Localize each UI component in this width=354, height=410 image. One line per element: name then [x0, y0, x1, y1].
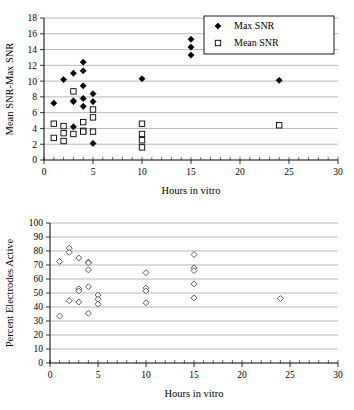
legend-label: Max SNR: [234, 20, 275, 31]
data-point-mean-snr: [139, 131, 144, 136]
data-point-percent-active: [66, 249, 72, 255]
data-point-percent-active: [57, 259, 63, 265]
data-point-max-snr: [188, 52, 194, 58]
y-tick-label: 16: [28, 29, 38, 39]
data-point-percent-active: [85, 310, 91, 316]
x-tick-label: 30: [333, 167, 343, 177]
data-point-mean-snr: [90, 107, 95, 112]
data-point-percent-active: [85, 284, 91, 290]
y-tick-label: 18: [28, 13, 38, 23]
data-point-percent-active: [85, 267, 91, 273]
x-tick-label: 25: [285, 370, 295, 380]
y-tick-label: 2: [32, 140, 37, 150]
data-point-percent-active: [143, 300, 149, 306]
y-tick-label: 90: [34, 232, 44, 242]
data-point-mean-snr: [71, 131, 76, 136]
data-point-mean-snr: [139, 145, 144, 150]
data-point-mean-snr: [61, 123, 66, 128]
x-tick-label: 0: [42, 167, 47, 177]
data-point-max-snr: [70, 124, 76, 130]
series-percent-electrodes-active: [57, 245, 284, 319]
data-point-mean-snr: [277, 123, 282, 128]
data-point-max-snr: [188, 36, 194, 42]
y-tick-label: 12: [28, 61, 38, 71]
data-point-max-snr: [80, 83, 86, 89]
x-tick-label: 15: [189, 370, 199, 380]
data-point-max-snr: [276, 77, 282, 83]
data-point-max-snr: [90, 91, 96, 97]
data-point-mean-snr: [139, 121, 144, 126]
x-tick-label: 5: [91, 167, 96, 177]
scatter-plot-snr: 051015202530024681012141618Hours in vitr…: [0, 0, 354, 205]
data-point-max-snr: [80, 59, 86, 65]
data-point-mean-snr: [61, 130, 66, 135]
x-axis-ticks: 051015202530: [42, 160, 343, 177]
data-point-percent-active: [277, 296, 283, 302]
data-point-max-snr: [70, 99, 76, 105]
y-tick-label: 4: [32, 124, 37, 134]
data-point-percent-active: [143, 270, 149, 276]
y-axis-title: Mean SNR-Max SNR: [4, 43, 15, 136]
y-tick-label: 0: [38, 358, 43, 368]
x-tick-label: 20: [235, 167, 245, 177]
data-point-mean-snr: [51, 121, 56, 126]
data-point-mean-snr: [139, 138, 144, 143]
y-tick-label: 20: [34, 330, 44, 340]
data-point-percent-active: [95, 301, 101, 307]
data-point-percent-active: [191, 281, 197, 287]
data-point-max-snr: [90, 99, 96, 105]
y-tick-label: 60: [34, 274, 44, 284]
y-tick-label: 100: [29, 218, 44, 228]
x-tick-label: 10: [137, 167, 147, 177]
data-point-mean-snr: [90, 115, 95, 120]
data-point-max-snr: [51, 100, 57, 106]
x-tick-label: 10: [141, 370, 151, 380]
x-axis-title: Hours in vitro: [162, 185, 221, 196]
x-tick-label: 15: [186, 167, 196, 177]
legend: Max SNRMean SNR: [204, 16, 334, 54]
chart-top-snr: 051015202530024681012141618Hours in vitr…: [0, 0, 354, 205]
data-point-max-snr: [70, 70, 76, 76]
data-point-percent-active: [191, 252, 197, 258]
y-tick-label: 10: [34, 344, 44, 354]
y-axis-ticks: 024681012141618: [28, 13, 45, 165]
y-tick-label: 50: [34, 288, 44, 298]
data-point-mean-snr: [81, 119, 86, 124]
data-point-max-snr: [80, 95, 86, 101]
legend-label: Mean SNR: [234, 37, 279, 48]
data-point-mean-snr: [51, 135, 56, 140]
x-tick-label: 30: [333, 370, 343, 380]
x-axis-ticks: 051015202530: [48, 363, 343, 380]
y-tick-label: 80: [34, 246, 44, 256]
x-tick-label: 25: [284, 167, 294, 177]
data-point-mean-snr: [81, 129, 86, 134]
y-tick-label: 70: [34, 260, 44, 270]
x-axis-title: Hours in vitro: [165, 388, 224, 399]
y-tick-label: 40: [34, 302, 44, 312]
data-point-max-snr: [80, 68, 86, 74]
y-tick-label: 6: [32, 108, 37, 118]
x-tick-label: 20: [237, 370, 247, 380]
figure-container: 051015202530024681012141618Hours in vitr…: [0, 0, 354, 410]
legend-marker-mean-snr: [215, 40, 220, 45]
y-tick-label: 8: [32, 92, 37, 102]
data-point-percent-active: [66, 298, 72, 304]
data-point-percent-active: [57, 313, 63, 319]
data-point-mean-snr: [61, 138, 66, 143]
data-point-percent-active: [191, 295, 197, 301]
data-point-mean-snr: [71, 89, 76, 94]
x-tick-label: 5: [96, 370, 101, 380]
data-point-max-snr: [80, 103, 86, 109]
chart-bottom-electrodes: 0510152025300102030405060708090100Hours …: [0, 205, 354, 410]
y-tick-label: 30: [34, 316, 44, 326]
y-tick-label: 10: [28, 77, 38, 87]
data-point-max-snr: [90, 140, 96, 146]
scatter-plot-electrodes: 0510152025300102030405060708090100Hours …: [0, 205, 354, 410]
y-tick-label: 0: [32, 155, 37, 165]
data-point-percent-active: [76, 255, 82, 261]
x-tick-label: 0: [48, 370, 53, 380]
data-point-percent-active: [76, 299, 82, 305]
y-axis-title: Percent Electrodes Active: [4, 238, 15, 347]
y-tick-label: 14: [28, 45, 38, 55]
y-axis-ticks: 0102030405060708090100: [29, 218, 50, 368]
